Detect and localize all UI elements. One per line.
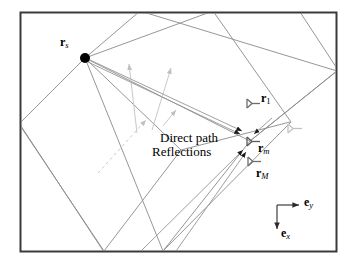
axis-ey-label-subscript: y [309, 200, 313, 210]
direct-path-annotation: Direct path [160, 131, 218, 144]
axis-ex-label-subscript: x [286, 231, 290, 241]
source-label: rs [60, 36, 69, 50]
receiver-1-label: r1 [261, 92, 271, 106]
receiver-M-label: rM [256, 167, 269, 181]
receiver-M-label-subscript: M [261, 171, 268, 181]
axis-ex-label: ex [281, 227, 290, 241]
reflections-annotation: Reflections [152, 145, 211, 158]
receiver-1-label-subscript: 1 [266, 96, 270, 106]
source-point [80, 53, 90, 63]
figure-root: rs r1 rm rM Direct path Reflections ey e… [0, 0, 354, 270]
axis-ey-label: ey [304, 196, 313, 210]
receiver-m-label: rm [258, 142, 270, 156]
source-label-subscript: s [65, 40, 68, 50]
receiver-m-label-subscript: m [263, 146, 269, 156]
